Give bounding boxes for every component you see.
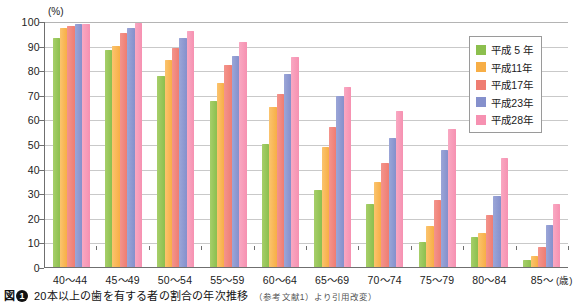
bar [366, 204, 373, 267]
y-axis-tick-label: 70 [6, 90, 40, 102]
legend-color-swatch [476, 62, 486, 72]
bar [210, 101, 217, 267]
bar [277, 94, 284, 267]
y-axis-tickmark [39, 71, 44, 72]
caption-text: 20本以上の歯を有する者の割合の年次推移 [34, 287, 248, 303]
bar-group [254, 22, 306, 267]
bar [135, 23, 142, 267]
bar [187, 31, 194, 267]
bar [478, 233, 485, 267]
bar [179, 38, 186, 267]
y-axis-tick-label: 10 [6, 237, 40, 249]
bar [546, 225, 553, 267]
x-axis-tickmark [149, 246, 150, 250]
x-axis-unit-label: (歳) [556, 273, 572, 287]
figure-tag: 図1 [4, 287, 28, 303]
y-axis-tick-label: 0 [6, 262, 40, 274]
figure-container: (%) 1009080706050403020100 40〜4445〜4950〜… [0, 0, 588, 307]
legend-item-label: 平成11年 [491, 60, 532, 75]
y-axis-tickmark [39, 243, 44, 244]
bar [239, 42, 246, 267]
bar [172, 48, 179, 267]
bar [419, 242, 426, 267]
bar [389, 138, 396, 267]
x-axis-tickmark [411, 246, 412, 250]
bar [67, 26, 74, 267]
bar-group [45, 22, 97, 267]
bar [426, 226, 433, 267]
x-axis-tickmark [306, 246, 307, 250]
legend-item: 平成11年 [476, 60, 533, 75]
bar [232, 56, 239, 267]
legend-color-swatch [476, 80, 486, 90]
legend-item: 平成28年 [476, 112, 533, 127]
y-axis-tickmark [39, 47, 44, 48]
chart-legend: 平成 5 年平成11年平成17年平成23年平成28年 [469, 36, 542, 133]
bar [501, 158, 508, 267]
bar [448, 129, 455, 267]
bar [531, 256, 538, 267]
y-axis-tick-label: 20 [6, 213, 40, 225]
bar [75, 24, 82, 267]
bar-group [306, 22, 358, 267]
x-axis-tickmark [254, 246, 255, 250]
x-axis-tick-label: 80〜84 [463, 272, 515, 287]
y-axis-tick-label: 30 [6, 188, 40, 200]
y-axis-tickmark [39, 22, 44, 23]
y-axis-tickmark [39, 194, 44, 195]
x-axis-tick-label: 40〜44 [44, 272, 96, 287]
x-axis-tick-label: 75〜79 [411, 272, 463, 287]
bar [434, 200, 441, 267]
legend-item-label: 平成17年 [491, 77, 533, 92]
y-axis-tick-label: 80 [6, 65, 40, 77]
y-axis-tickmark [39, 120, 44, 121]
bar [157, 76, 164, 267]
bar [112, 46, 119, 267]
bar [381, 163, 388, 267]
legend-color-swatch [476, 45, 486, 55]
bar [60, 28, 67, 267]
legend-item: 平成 5 年 [476, 42, 533, 57]
bar [523, 260, 530, 267]
x-axis-tick-label: 50〜54 [149, 272, 201, 287]
legend-item: 平成23年 [476, 95, 533, 110]
bar [344, 87, 351, 267]
legend-item-label: 平成23年 [491, 95, 533, 110]
bar [493, 196, 500, 267]
x-axis-tickmark [463, 246, 464, 250]
bar [486, 215, 493, 267]
legend-item-label: 平成 5 年 [491, 42, 533, 57]
bar [120, 33, 127, 267]
bar [322, 147, 329, 267]
y-axis-unit-label: (%) [48, 6, 64, 17]
x-axis-tick-label: 65〜69 [306, 272, 358, 287]
bar [329, 127, 336, 267]
bar [291, 57, 298, 267]
bar [336, 96, 343, 267]
y-axis-tick-label: 60 [6, 114, 40, 126]
bar [471, 237, 478, 267]
y-axis-tick-label: 40 [6, 164, 40, 176]
legend-item: 平成17年 [476, 77, 533, 92]
y-axis-tick-label: 50 [6, 139, 40, 151]
bar [396, 111, 403, 267]
legend-item-label: 平成28年 [491, 112, 533, 127]
legend-color-swatch [476, 97, 486, 107]
bar [224, 65, 231, 267]
legend-color-swatch [476, 115, 486, 125]
bar [441, 150, 448, 267]
x-axis-tickmark [516, 246, 517, 250]
x-axis-tickmark [358, 246, 359, 250]
bar [553, 204, 560, 267]
y-axis-tickmark [39, 268, 44, 269]
bar [217, 83, 224, 267]
bar [82, 24, 89, 267]
bar [538, 247, 545, 267]
bar [262, 144, 269, 267]
bar-group [97, 22, 149, 267]
x-axis-tick-label: 55〜59 [201, 272, 253, 287]
y-axis-tick-label: 100 [6, 16, 40, 28]
y-axis-tickmark [39, 170, 44, 171]
x-axis-tickmark [201, 246, 202, 250]
x-axis-tickmark [96, 246, 97, 250]
